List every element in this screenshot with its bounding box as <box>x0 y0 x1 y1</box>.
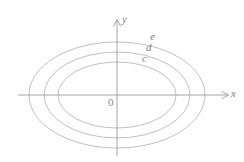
y-axis-label: y <box>122 14 127 25</box>
origin-label: 0 <box>108 97 114 108</box>
curve-label-c: c <box>142 53 147 64</box>
axis-group <box>18 20 229 157</box>
ellipse-figure: y x 0 e d c <box>0 0 244 162</box>
x-axis-label: x <box>231 88 236 99</box>
